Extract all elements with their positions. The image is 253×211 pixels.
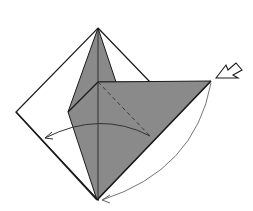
push-arrow-icon [216, 63, 242, 78]
origami-diagram [0, 0, 253, 211]
